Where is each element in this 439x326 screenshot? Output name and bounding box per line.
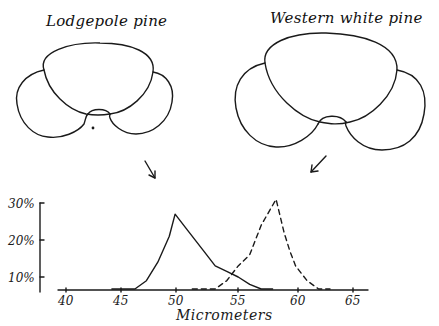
y-tick-20: 20%: [7, 234, 35, 248]
x-tick-40: 40: [57, 294, 74, 308]
x-tick-65: 65: [345, 294, 360, 308]
x-axis-label: Micrometers: [175, 307, 273, 323]
x-tick-50: 50: [168, 294, 184, 308]
lodgepole-arrow-icon: [145, 161, 155, 178]
y-tick-10: 10%: [8, 271, 35, 285]
y-axis: [40, 203, 44, 292]
x-tick-55: 55: [230, 294, 245, 308]
x-tick-45: 45: [112, 294, 128, 308]
western-white-pine-arrow-icon: [311, 156, 326, 172]
pollen-dot: [92, 127, 95, 130]
x-tick-60: 60: [290, 294, 306, 308]
western-white-pine-curve: [192, 199, 330, 289]
lodgepole-pollen-drawing: [17, 43, 173, 137]
y-tick-30: 30%: [8, 197, 35, 211]
figure-canvas: 30% 20% 10% 40 45 50 55 60 65 Micrometer…: [0, 0, 439, 326]
lodgepole-pine-curve: [112, 214, 273, 289]
western-white-pine-pollen-drawing: [235, 33, 425, 150]
